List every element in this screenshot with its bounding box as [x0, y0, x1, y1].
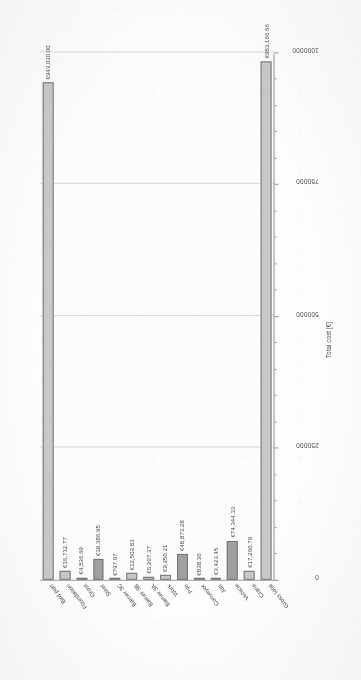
bar-value-label: €9,250.21 [162, 544, 168, 571]
x-minor-tick [274, 395, 276, 396]
category-label: Crane [249, 583, 264, 599]
bar-value-label: €39,386.95 [95, 525, 101, 556]
x-minor-tick [274, 474, 276, 475]
x-minor-tick [274, 211, 276, 212]
bar[interactable] [93, 559, 104, 580]
category-label: Work [166, 583, 179, 598]
bar-row: €838.36 [190, 53, 207, 579]
bar-value-label: €74,344.33 [229, 507, 235, 538]
bar-chart: €943,030.00€16,712.77€4,536.69€39,386.95… [31, 42, 330, 639]
bar-value-label: €48,873.28 [179, 520, 185, 551]
bar-value-label: €17,260.79 [246, 537, 252, 568]
bar[interactable] [260, 61, 271, 579]
x-minor-tick [274, 158, 276, 159]
bar-value-label: €6,207.37 [145, 546, 151, 573]
x-minor-tick [274, 369, 276, 370]
bar-value-label: €16,712.77 [61, 537, 67, 568]
x-minor-tick [274, 237, 276, 238]
x-minor-tick [274, 342, 276, 343]
bar-value-label: €983,166.66 [263, 24, 269, 58]
x-minor-tick [274, 79, 276, 80]
gridline [39, 51, 274, 52]
bar-row: €16,712.77 [56, 53, 73, 579]
x-minor-tick [274, 290, 276, 291]
x-minor-tick [274, 501, 276, 502]
bar-value-label: €4,536.69 [78, 547, 84, 574]
bar[interactable] [210, 578, 221, 580]
bar-row: €943,030.00 [39, 53, 56, 579]
bar[interactable] [160, 575, 171, 580]
x-tick-label: 500000 [296, 311, 319, 318]
bar-value-label: €3,423.45 [212, 548, 218, 575]
bar-row: €983,166.66 [257, 53, 274, 579]
bar-row: €17,260.79 [240, 53, 257, 579]
bar-row: €48,873.28 [173, 53, 190, 579]
plot-area: €943,030.00€16,712.77€4,536.69€39,386.95… [39, 53, 274, 580]
bar-value-label: €12,502.83 [128, 539, 134, 570]
bar[interactable] [176, 554, 187, 580]
x-minor-tick [274, 263, 276, 264]
bar[interactable] [243, 571, 254, 580]
x-tick-mark [274, 448, 278, 449]
bar[interactable] [227, 541, 238, 580]
x-tick-label: 750000 [296, 179, 319, 186]
bar-row: €6,207.37 [140, 53, 157, 579]
bar-row: €39,386.95 [90, 53, 107, 579]
x-tick-mark [274, 316, 278, 317]
category-label: Vehicle [233, 583, 250, 602]
category-label: Job [216, 583, 227, 594]
bar-row: €74,344.33 [224, 53, 241, 579]
bar-row: €12,502.83 [123, 53, 140, 579]
category-label: Grout [82, 583, 96, 598]
bar-value-label: €797.97 [112, 553, 118, 575]
x-tick-mark [274, 184, 278, 185]
x-tick-mark [274, 580, 278, 581]
x-minor-tick [274, 105, 276, 106]
x-axis-title: Total cost [€] [325, 42, 332, 639]
x-minor-tick [274, 527, 276, 528]
x-minor-tick [274, 553, 276, 554]
category-label: Pile [182, 583, 193, 595]
bar[interactable] [126, 573, 137, 580]
scanned-page: €943,030.00€16,712.77€4,536.69€39,386.95… [0, 0, 361, 680]
bar-row: €797.97 [106, 53, 123, 579]
bar[interactable] [42, 82, 53, 579]
category-label: Gross total [266, 583, 288, 609]
bar[interactable] [143, 577, 154, 580]
bar-value-label: €943,030.00 [45, 45, 51, 79]
x-tick-label: 1000000 [292, 47, 319, 54]
bar-value-label: €838.36 [196, 553, 202, 575]
bar[interactable] [59, 571, 70, 580]
x-tick-label: 250000 [296, 442, 319, 449]
x-minor-tick [274, 132, 276, 133]
category-label: Steel [99, 583, 112, 597]
x-minor-tick [274, 422, 276, 423]
bar[interactable] [109, 578, 120, 580]
bar[interactable] [76, 577, 87, 579]
bar-row: €3,423.45 [207, 53, 224, 579]
bar-row: €9,250.21 [157, 53, 174, 579]
x-tick-label: 0 [314, 574, 318, 581]
bar-row: €4,536.69 [73, 53, 90, 579]
x-tick-mark [274, 52, 278, 53]
bar[interactable] [193, 578, 204, 580]
